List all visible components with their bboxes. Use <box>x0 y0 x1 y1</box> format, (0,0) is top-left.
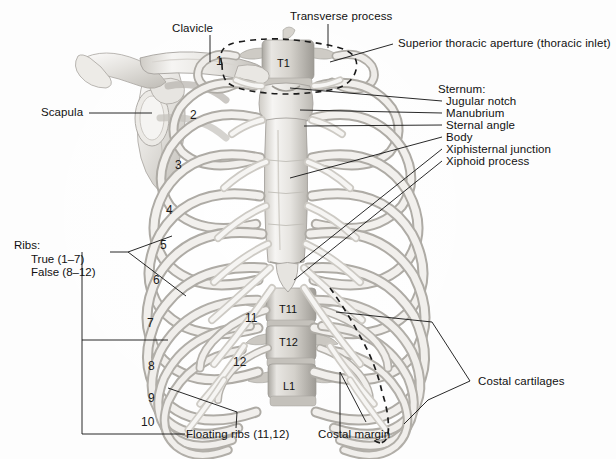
label-rib-3: 3 <box>175 158 182 172</box>
label-floating-ribs: Floating ribs (11,12) <box>186 428 290 442</box>
label-vertebra-t12: T12 <box>279 336 298 348</box>
label-ribs-false: False (8–12) <box>14 266 96 280</box>
label-ribs-true: True (1–7) <box>14 253 96 267</box>
thoracic-cage-illustration <box>0 0 616 459</box>
label-rib-2: 2 <box>190 108 197 122</box>
label-rib-1: 1 <box>216 54 223 68</box>
label-vertebra-t1: T1 <box>277 57 290 69</box>
label-scapula: Scapula <box>41 106 83 120</box>
label-vertebra-t11: T11 <box>279 303 297 315</box>
label-rib-11: 11 <box>245 311 257 325</box>
label-ribs-heading: Ribs: <box>14 239 96 253</box>
label-transverse-process: Transverse process <box>290 10 392 24</box>
label-rib-12: 12 <box>233 355 246 369</box>
label-vertebra-l1: L1 <box>283 380 295 392</box>
label-rib-5: 5 <box>160 238 167 252</box>
label-ribs-group: Ribs: True (1–7) False (8–12) <box>14 239 96 280</box>
label-rib-7: 7 <box>147 316 154 330</box>
label-superior-thoracic-aperture: Superior thoracic aperture (thoracic inl… <box>398 37 611 51</box>
label-costal-cartilages: Costal cartilages <box>478 375 565 389</box>
label-rib-6: 6 <box>153 273 160 287</box>
label-costal-margin: Costal margin <box>318 428 390 442</box>
label-xiphoid-process: Xiphoid process <box>446 155 529 169</box>
label-rib-4: 4 <box>166 203 173 217</box>
label-rib-8: 8 <box>148 359 155 373</box>
label-clavicle: Clavicle <box>172 22 213 36</box>
anatomy-figure: Clavicle Scapula Transverse process Supe… <box>0 0 616 459</box>
label-rib-9: 9 <box>148 391 155 405</box>
label-rib-10: 10 <box>141 415 154 429</box>
